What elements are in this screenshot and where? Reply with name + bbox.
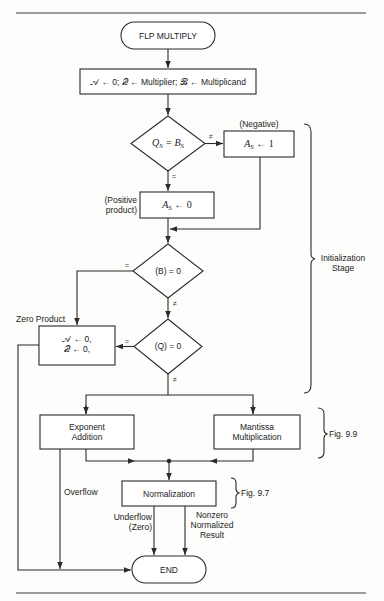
- exponent-label: ExponentAddition: [40, 422, 134, 442]
- negative-annotation: (Negative): [224, 119, 294, 129]
- b-zero-label: (B) = 0: [133, 266, 203, 276]
- nonzero-label: NonzeroNormalizedResult: [187, 510, 237, 540]
- start-label: FLP MULTIPLY: [121, 31, 215, 41]
- sign-eq-label: =: [169, 172, 179, 182]
- q-zero-label: (Q) = 0: [134, 341, 202, 351]
- overflow-label: Overflow: [64, 487, 114, 497]
- fig97-brace: [231, 478, 239, 508]
- underflow-label: Underflow(Zero): [100, 512, 152, 532]
- b-eq-label: =: [122, 261, 132, 271]
- mantissa-label: MantissaMultiplication: [214, 422, 300, 442]
- positive-annotation: (Positiveproduct): [80, 195, 137, 215]
- sign-decision-label: QS = BS: [131, 138, 205, 151]
- sign-ne-label: ≠: [206, 132, 216, 142]
- fig99-brace: [318, 408, 327, 458]
- q-ne-label: ≠: [170, 375, 180, 385]
- end-label: END: [132, 565, 206, 575]
- fig99-label: Fig. 9.9: [329, 429, 379, 439]
- flowchart-figure: FLP MULTIPLY 𝒜 ← 0; 𝒬 ← Multiplier; ℬ ← …: [0, 0, 384, 601]
- zero-product-annotation: Zero Product: [16, 314, 86, 324]
- negative-box-label: AS ← 1: [224, 139, 294, 152]
- zero-box-label: 𝒜 ← 0,𝒬 ← 0,: [39, 334, 115, 354]
- init-label: 𝒜 ← 0; 𝒬 ← Multiplier; ℬ ← Multiplicand: [80, 77, 256, 87]
- q-eq-label: =: [122, 337, 132, 347]
- normalization-label: Normalization: [122, 489, 216, 499]
- fig97-label: Fig. 9.7: [241, 488, 291, 498]
- b-ne-label: ≠: [170, 299, 180, 309]
- initialization-stage-label: InitializationStage: [312, 253, 374, 273]
- positive-box-label: AS ← 0: [140, 200, 214, 213]
